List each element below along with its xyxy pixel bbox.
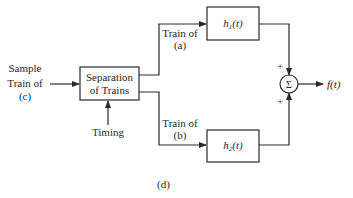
input-label-line2: Train of	[7, 77, 43, 89]
branch-a-label-line2: (a)	[174, 39, 187, 52]
figure-caption: (d)	[157, 178, 170, 191]
input-label-line3: (c)	[19, 90, 32, 103]
filter-h1-label: h1(t)	[223, 17, 243, 31]
branch-b-label-line2: (b)	[174, 129, 187, 142]
separation-label-line2: of Trains	[90, 84, 129, 96]
plus-sign-top: +	[277, 61, 283, 72]
separation-label-line1: Separation	[86, 71, 134, 83]
h2-to-summer-path	[259, 93, 289, 145]
output-label: f(t)	[327, 78, 341, 91]
block-diagram: Sample Train of (c) Separation of Trains…	[0, 0, 353, 198]
plus-sign-bottom: +	[277, 96, 283, 107]
branch-a-label-line1: Train of	[162, 27, 198, 39]
timing-label: Timing	[92, 126, 125, 138]
branch-b-label-line1: Train of	[162, 117, 198, 129]
h1-to-summer-path	[259, 24, 289, 75]
filter-h2-label: h2(t)	[223, 139, 243, 153]
input-label-line1: Sample	[9, 62, 42, 74]
sigma-symbol: Σ	[286, 79, 292, 90]
